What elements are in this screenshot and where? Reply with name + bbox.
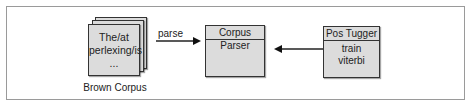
member-train: train <box>324 43 379 55</box>
member-viterbi: viterbi <box>324 55 379 67</box>
corpus-parser-title: Corpus Parser <box>206 26 264 40</box>
corpus-parser-box: Corpus Parser <box>205 25 265 77</box>
pos-tagger-title: Pos Tugger <box>324 27 379 41</box>
parse-arrow <box>156 37 201 45</box>
pos-tagger-box: Pos Tugger train viterbi <box>323 26 380 78</box>
pos-tagger-body: train viterbi <box>324 41 379 67</box>
